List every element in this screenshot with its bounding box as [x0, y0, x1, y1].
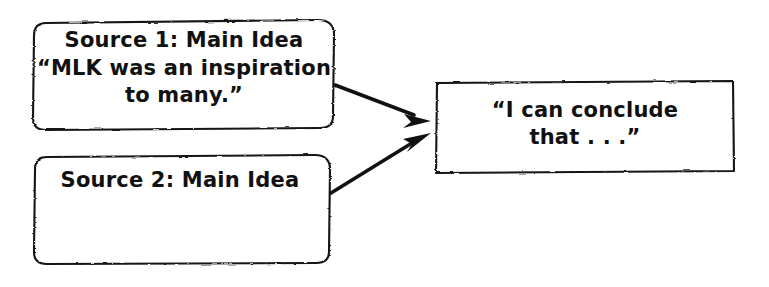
source-1-line-3: to many.” [34, 83, 334, 107]
arrow-source1-to-conclusion [335, 85, 431, 128]
source-2-text: Source 2: Main Idea [34, 168, 326, 192]
source-1-line-2: “MLK was an inspiration [34, 56, 334, 80]
source-1-text: Source 1: Main Idea “MLK was an inspirat… [34, 28, 334, 107]
diagram-canvas: Source 1: Main Idea “MLK was an inspirat… [0, 0, 769, 287]
conclusion-line-2: that . . .” [438, 125, 732, 149]
source-2-line-1: Source 2: Main Idea [34, 168, 326, 192]
source-1-line-1: Source 1: Main Idea [34, 28, 334, 52]
conclusion-line-1: “I can conclude [438, 98, 732, 122]
arrow-source2-to-conclusion [331, 133, 431, 193]
conclusion-text: “I can conclude that . . .” [438, 98, 732, 150]
